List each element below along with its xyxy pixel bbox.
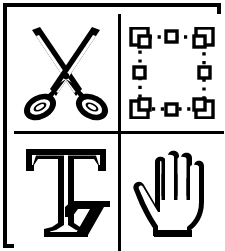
scissors-icon xyxy=(20,23,112,123)
tool-grid xyxy=(14,14,224,251)
tool-button-cut[interactable] xyxy=(14,14,118,131)
tool-button-select[interactable] xyxy=(121,14,225,131)
tool-button-text[interactable] xyxy=(14,134,118,251)
text-tool-icon xyxy=(20,145,112,241)
palette-frame xyxy=(3,3,221,248)
selection-marquee-icon xyxy=(128,27,216,119)
hand-icon xyxy=(129,144,215,242)
tool-palette xyxy=(0,0,224,251)
tool-button-pan[interactable] xyxy=(121,134,225,251)
